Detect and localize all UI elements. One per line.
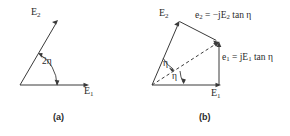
panel-a-caption: (a)	[53, 113, 64, 122]
panel-b-angle-lower-label: η	[172, 72, 177, 82]
panel-b-e2-arrowhead	[174, 21, 179, 27]
panel-b-e1-equation-label: e1 = jE1 tan η	[222, 53, 273, 63]
panel-b-e1-label: E1	[211, 88, 221, 100]
panel-a-angle-label: 2η	[42, 57, 52, 67]
panel-b-graphics	[152, 21, 221, 87]
figure-container: E2 E1 2η (a) E2 E1 e2 = −jE2 tan η e1 = …	[0, 0, 290, 136]
panel-a-graphics	[20, 20, 89, 87]
panel-b-angle-upper-label: η	[163, 59, 168, 69]
panel-b-e2-component-vector	[180, 22, 217, 41]
panel-b-e2-equation-label: e2 = −jE2 tan η	[195, 11, 251, 21]
panel-a-e2-arrowhead	[52, 20, 58, 25]
panel-b-e2-label: E2	[159, 8, 169, 20]
panel-a-e2-vector	[20, 24, 56, 85]
panel-b-resultant-dashed-vector	[152, 44, 216, 85]
panel-a-e2-label: E2	[31, 7, 41, 19]
panel-a-e1-label: E1	[84, 86, 94, 98]
panel-b-caption: (b)	[199, 113, 211, 122]
